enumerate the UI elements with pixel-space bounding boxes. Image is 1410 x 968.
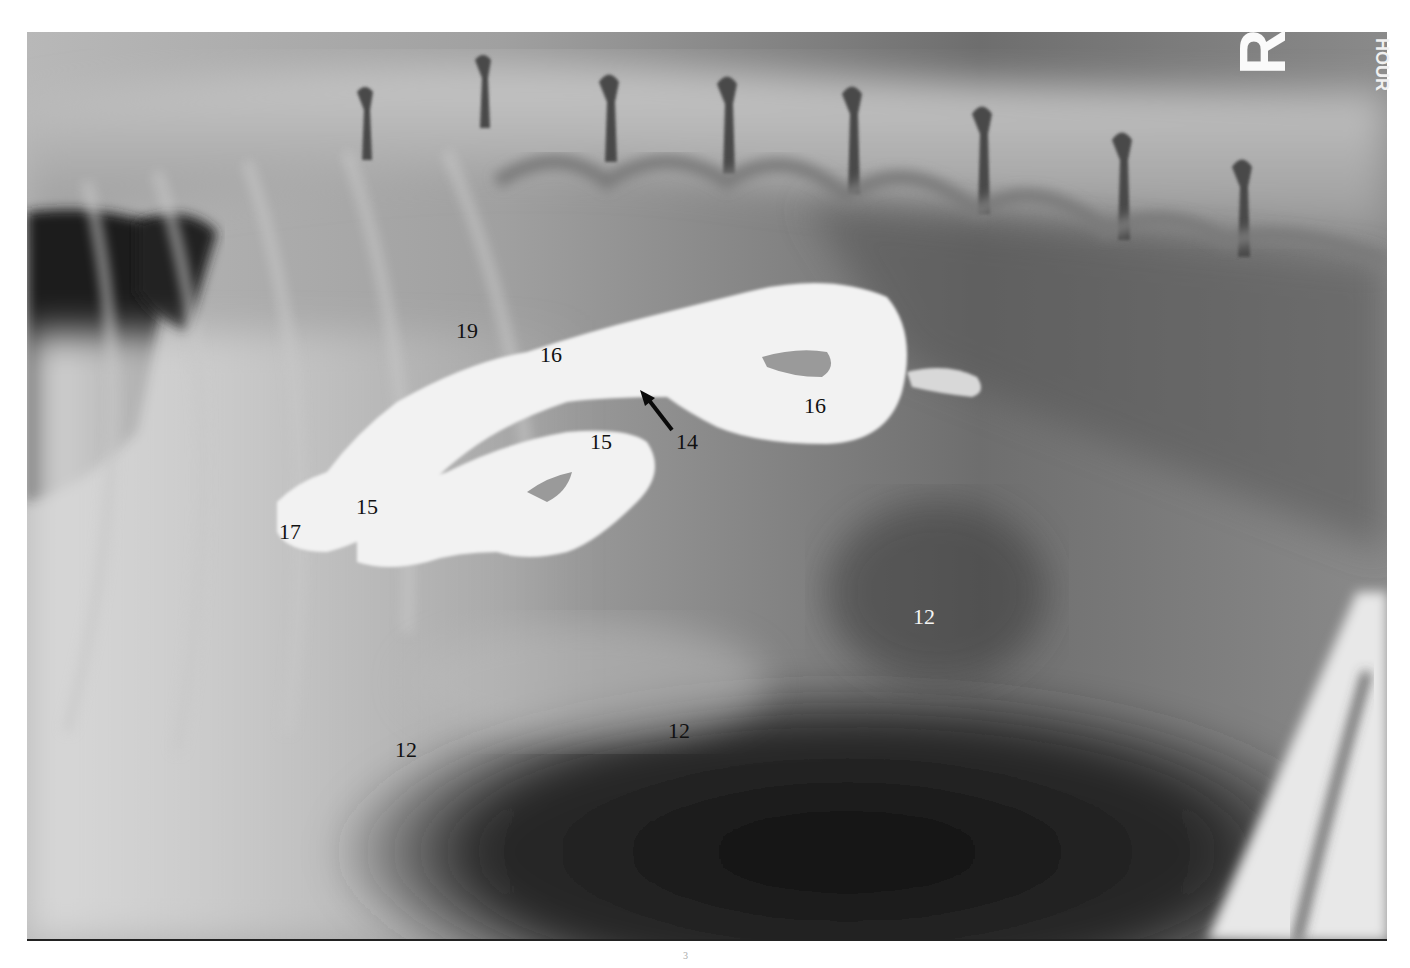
label-16: 16 — [540, 344, 562, 366]
label-12: 12 — [668, 720, 690, 742]
side-marker: R — [1231, 29, 1295, 75]
page-footmark: 3 — [683, 950, 688, 961]
label-12: 12 — [913, 606, 935, 628]
label-17: 17 — [279, 521, 301, 543]
radiograph-image — [27, 32, 1387, 940]
label-15: 15 — [356, 496, 378, 518]
film-edge-line — [27, 939, 1387, 941]
label-16: 16 — [804, 395, 826, 417]
edge-text: HOUR — [1371, 38, 1392, 91]
radiograph-render — [27, 32, 1387, 940]
label-15: 15 — [590, 431, 612, 453]
label-12: 12 — [395, 739, 417, 761]
label-14: 14 — [676, 431, 698, 453]
label-19: 19 — [456, 320, 478, 342]
